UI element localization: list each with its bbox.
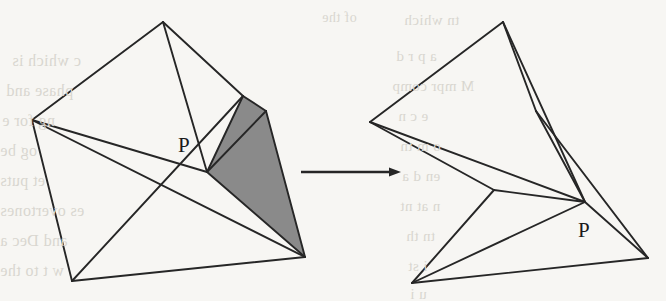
mesh-edge	[72, 257, 305, 281]
transformation-arrow	[301, 168, 401, 177]
arrow-head-icon	[389, 168, 401, 177]
mesh-edge	[536, 111, 585, 202]
mesh-edge	[503, 22, 585, 202]
figure-container: of thec which isphase andng for eog beet…	[0, 0, 666, 301]
mesh-edge	[412, 258, 648, 283]
mesh-edge	[163, 22, 243, 96]
mesh-edge	[370, 22, 503, 122]
mesh-edge	[32, 120, 72, 281]
mesh-edge	[412, 190, 494, 283]
mesh-edge	[536, 111, 648, 258]
mesh-edge	[412, 202, 585, 283]
mesh-edge	[585, 202, 648, 258]
mesh-edge	[72, 96, 243, 281]
mesh-edge	[32, 22, 163, 120]
vertex-label-p-before: P	[178, 133, 190, 157]
mesh-edge	[503, 22, 536, 111]
vertex-label-p-after: P	[578, 218, 590, 242]
mesh-transformation-diagram: P P	[0, 0, 666, 301]
mesh-after-edges	[370, 22, 648, 283]
mesh-edge	[370, 122, 494, 190]
